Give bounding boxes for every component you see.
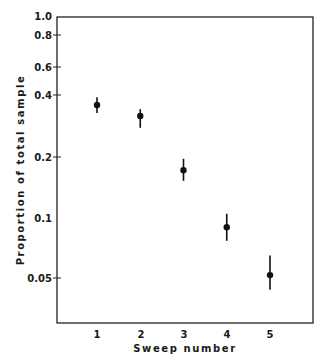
x-axis-title: Sweep number: [133, 343, 236, 354]
y-tick-label: 1.0: [34, 11, 52, 22]
y-tick-label: 0.2: [34, 152, 52, 163]
data-point: [180, 167, 186, 173]
chart: 1.0 0.8 0.6 0.4 0.2 0.1 0.05 Proportion …: [0, 0, 323, 361]
data-point: [224, 224, 230, 230]
y-tick-label: 0.1: [34, 213, 52, 224]
data-point: [137, 113, 143, 119]
y-tick-label: 0.6: [34, 62, 52, 73]
y-axis-title: Proportion of total sample: [15, 75, 26, 266]
x-axis: 1 2 3 4 5: [94, 329, 274, 340]
x-tick-label: 5: [267, 329, 274, 340]
data-series: [94, 97, 273, 289]
x-tick-label: 2: [138, 329, 145, 340]
x-tick-label: 3: [181, 329, 188, 340]
x-tick-label: 1: [94, 329, 101, 340]
y-axis: 1.0 0.8 0.6 0.4 0.2 0.1 0.05: [27, 11, 61, 284]
data-point: [94, 102, 100, 108]
y-tick-label: 0.4: [34, 90, 52, 101]
x-tick-label: 4: [224, 329, 231, 340]
y-tick-label: 0.8: [34, 30, 52, 41]
data-point: [267, 272, 273, 278]
y-tick-label: 0.05: [27, 273, 52, 284]
